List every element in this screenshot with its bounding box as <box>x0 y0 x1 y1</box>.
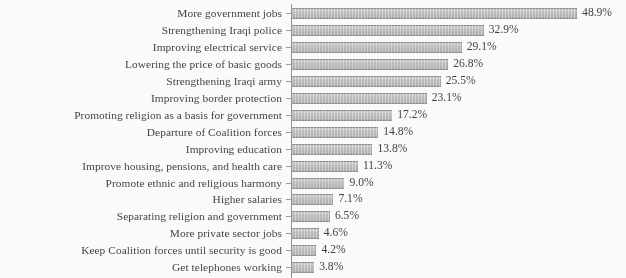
bar-value-label: 23.1% <box>432 90 462 107</box>
bar-row: Improving education13.8% <box>0 141 626 158</box>
bar-value-label: 29.1% <box>467 39 497 56</box>
bar <box>292 42 462 53</box>
bar-value-label: 9.0% <box>349 175 373 192</box>
category-label: Higher salaries <box>2 191 282 208</box>
horizontal-bar-chart: More government jobs48.9%Strengthening I… <box>0 0 626 278</box>
bar-row: Promote ethnic and religious harmony9.0% <box>0 175 626 192</box>
bar-value-label: 4.2% <box>321 242 345 259</box>
bar <box>292 59 448 70</box>
bar <box>292 144 372 155</box>
category-label: More government jobs <box>2 5 282 22</box>
bar-row: Improve housing, pensions, and health ca… <box>0 158 626 175</box>
bar-value-label: 25.5% <box>446 73 476 90</box>
bar-value-label: 26.8% <box>453 56 483 73</box>
bar-row: Strengthening Iraqi police32.9% <box>0 22 626 39</box>
bar-value-label: 13.8% <box>377 141 407 158</box>
bar-row: More government jobs48.9% <box>0 5 626 22</box>
bar-value-label: 32.9% <box>489 22 519 39</box>
category-label: Get telephones working <box>2 259 282 276</box>
bar-row: Keep Coalition forces until security is … <box>0 242 626 259</box>
category-label: Promote ethnic and religious harmony <box>2 175 282 192</box>
bar-row: Lowering the price of basic goods26.8% <box>0 56 626 73</box>
category-label: Strengthening Iraqi police <box>2 22 282 39</box>
bar-row: Improving electrical service29.1% <box>0 39 626 56</box>
bar-value-label: 4.6% <box>324 225 348 242</box>
category-label: Improving education <box>2 141 282 158</box>
bar <box>292 245 316 256</box>
bar <box>292 262 314 273</box>
bar-row: Departure of Coalition forces14.8% <box>0 124 626 141</box>
bar <box>292 110 392 121</box>
bar <box>292 211 330 222</box>
bar-row: Promoting religion as a basis for govern… <box>0 107 626 124</box>
bar-value-label: 14.8% <box>383 124 413 141</box>
bar-value-label: 3.8% <box>319 259 343 276</box>
category-label: Improving electrical service <box>2 39 282 56</box>
bar-value-label: 7.1% <box>338 191 362 208</box>
bar-row: More private sector jobs4.6% <box>0 225 626 242</box>
bar <box>292 178 344 189</box>
bar <box>292 76 441 87</box>
category-label: Separating religion and government <box>2 208 282 225</box>
category-label: Departure of Coalition forces <box>2 124 282 141</box>
bar-row: Improving border protection23.1% <box>0 90 626 107</box>
category-label: Strengthening Iraqi army <box>2 73 282 90</box>
bar <box>292 161 358 172</box>
bar-value-label: 6.5% <box>335 208 359 225</box>
bar <box>292 228 319 239</box>
bar <box>292 93 427 104</box>
bar-row: Separating religion and government6.5% <box>0 208 626 225</box>
bar-row: Higher salaries7.1% <box>0 191 626 208</box>
category-label: More private sector jobs <box>2 225 282 242</box>
bar <box>292 8 577 19</box>
bar-row: Get telephones working3.8% <box>0 259 626 276</box>
bar <box>292 25 484 36</box>
bar-value-label: 11.3% <box>363 158 393 175</box>
bar-row: Strengthening Iraqi army25.5% <box>0 73 626 90</box>
category-label: Keep Coalition forces until security is … <box>2 242 282 259</box>
category-label: Lowering the price of basic goods <box>2 56 282 73</box>
category-label: Promoting religion as a basis for govern… <box>2 107 282 124</box>
bar-value-label: 48.9% <box>582 5 612 22</box>
bar <box>292 127 378 138</box>
category-label: Improve housing, pensions, and health ca… <box>2 158 282 175</box>
category-label: Improving border protection <box>2 90 282 107</box>
bar-value-label: 17.2% <box>397 107 427 124</box>
bar <box>292 194 333 205</box>
